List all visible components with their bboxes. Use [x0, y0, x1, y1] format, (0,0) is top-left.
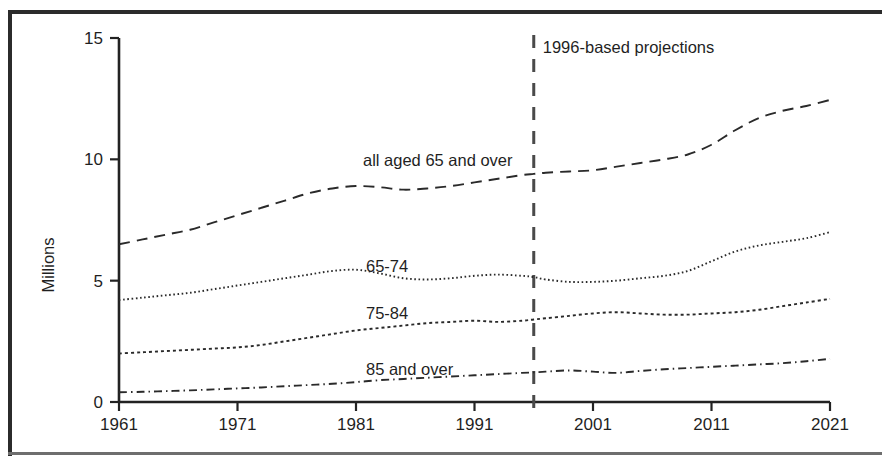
y-axis-title: Millions [39, 237, 57, 292]
x-tick-label: 1971 [219, 415, 257, 434]
y-tick-label: 5 [94, 272, 103, 291]
x-tick-label: 1981 [337, 415, 375, 434]
y-tick-label: 0 [94, 393, 103, 412]
y-tick-label: 10 [84, 150, 103, 169]
x-tick-label: 1991 [456, 415, 494, 434]
series-label-all-65-and-over: all aged 65 and over [363, 151, 513, 169]
series-line-85-and-over [119, 359, 830, 392]
x-tick-label: 2001 [574, 415, 612, 434]
x-tick-label: 2011 [693, 415, 730, 434]
projection-annotation-label: 1996-based projections [543, 38, 715, 56]
series-line-65-74 [119, 232, 830, 300]
x-axis-ticks: 1961197119811991200120112021 [100, 402, 849, 434]
series-label-85-and-over: 85 and over [366, 360, 454, 378]
x-tick-label: 2021 [811, 415, 849, 434]
line-chart: Millions 051015 196119711981199120012011… [0, 0, 884, 456]
series-label-65-74: 65-74 [366, 257, 408, 275]
series-line-all-65-and-over [119, 100, 830, 244]
x-tick-label: 1961 [100, 415, 138, 434]
y-tick-label: 15 [84, 29, 103, 48]
figure-container: Millions 051015 196119711981199120012011… [0, 0, 884, 456]
y-axis-ticks: 051015 [84, 29, 119, 412]
series-line-75-84 [119, 299, 830, 354]
series-label-75-84: 75-84 [366, 304, 408, 322]
